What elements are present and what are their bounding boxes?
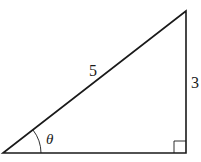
hypotenuse-label: 5 xyxy=(89,62,97,79)
triangle xyxy=(3,11,186,153)
opposite-side-label: 3 xyxy=(191,74,199,91)
right-triangle-diagram: 5 3 θ xyxy=(0,0,201,162)
angle-arc xyxy=(33,130,41,153)
angle-theta-label: θ xyxy=(46,131,54,147)
right-angle-marker xyxy=(174,141,186,153)
